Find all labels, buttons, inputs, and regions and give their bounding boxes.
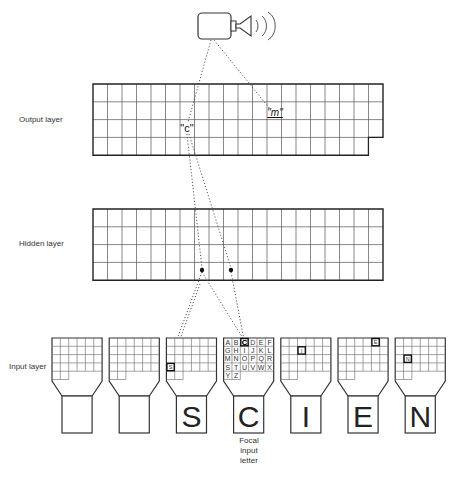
input-layer-label: Input layer: [9, 362, 46, 371]
alphabet-cell-B: B: [234, 339, 239, 346]
alphabet-cell-O: O: [242, 355, 248, 362]
alphabet-cell-X: X: [267, 364, 272, 371]
network-diagram: "c""m"SSABCDEFGHIJKLMNOPQRSTUVWXYZCCIIEE…: [0, 0, 462, 477]
caption-line: Focal: [229, 436, 269, 446]
output-label-m: "m": [267, 107, 283, 118]
alphabet-cell-L: L: [268, 347, 272, 354]
alphabet-cell-F: F: [267, 339, 271, 346]
alphabet-cell-W: W: [258, 364, 265, 371]
caption-line: input: [229, 446, 269, 456]
input-letter-box: [119, 396, 149, 433]
active-cell-letter: S: [169, 364, 173, 370]
alphabet-cell-E: E: [259, 339, 264, 346]
alphabet-cell-H: H: [234, 347, 239, 354]
alphabet-cell-U: U: [242, 364, 247, 371]
focal-input-caption: Focal input letter: [229, 436, 269, 466]
alphabet-cell-Z: Z: [234, 372, 239, 379]
active-cell-letter: E: [374, 339, 378, 345]
alphabet-cell-M: M: [225, 355, 231, 362]
output-label-c: "c": [180, 122, 193, 134]
connection-line: [188, 40, 211, 122]
alphabet-cell-D: D: [250, 339, 255, 346]
alphabet-cell-R: R: [267, 355, 272, 362]
output-layer-label: Output layer: [19, 115, 63, 124]
input-letter: I: [302, 400, 310, 433]
alphabet-cell-T: T: [234, 364, 239, 371]
caption-line: letter: [229, 456, 269, 466]
hidden-unit-dot: [200, 268, 204, 272]
alphabet-cell-I: I: [243, 347, 245, 354]
alphabet-cell-A: A: [225, 339, 230, 346]
speaker-icon: [198, 12, 275, 40]
output-layer-notch-mask: [369, 138, 386, 156]
alphabet-cell-S: S: [225, 364, 230, 371]
alphabet-cell-N: N: [234, 355, 239, 362]
input-letter: N: [409, 400, 431, 433]
alphabet-cell-Q: Q: [258, 355, 264, 363]
input-letter: E: [353, 400, 373, 433]
diagram-canvas: "c""m"SSABCDEFGHIJKLMNOPQRSTUVWXYZCCIIEE…: [0, 0, 462, 477]
alphabet-cell-Y: Y: [225, 372, 230, 379]
alphabet-cell-G: G: [225, 347, 230, 354]
hidden-unit-dot: [229, 268, 233, 272]
alphabet-cell-V: V: [250, 364, 255, 371]
alphabet-cell-J: J: [251, 347, 255, 354]
alphabet-cell-K: K: [259, 347, 264, 354]
connection-line: [176, 272, 202, 342]
input-letter-box: [62, 396, 92, 433]
active-cell-letter: C: [242, 338, 248, 347]
alphabet-cell-P: P: [250, 355, 255, 362]
hidden-layer-label: Hidden layer: [19, 239, 64, 248]
connection-line: [214, 40, 270, 109]
input-letter: C: [238, 400, 260, 433]
connection-line: [202, 272, 244, 340]
input-letter: S: [181, 400, 201, 433]
connection-line: [189, 134, 231, 268]
active-cell-letter: N: [406, 356, 410, 362]
